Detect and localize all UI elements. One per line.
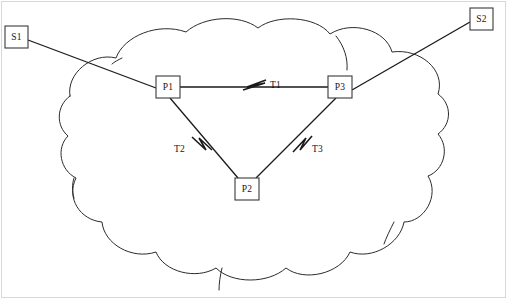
node-p1[interactable]: P1 <box>156 76 180 98</box>
node-s1[interactable]: S1 <box>5 26 28 48</box>
node-p3-label: P3 <box>335 82 345 92</box>
network-diagram: T1 T2 T3 S1 S2 P1 P2 <box>0 0 507 299</box>
node-s2-label: S2 <box>476 14 486 24</box>
link-label-t3: T3 <box>312 144 323 154</box>
node-p1-label: P1 <box>163 82 173 92</box>
network-cloud <box>59 19 448 290</box>
link-label-t1: T1 <box>270 80 281 90</box>
node-p3[interactable]: P3 <box>328 76 352 98</box>
diagram-canvas: T1 T2 T3 S1 S2 P1 P2 <box>0 0 507 299</box>
link-label-t2: T2 <box>174 144 185 154</box>
cloud-outline <box>59 19 448 280</box>
node-p2[interactable]: P2 <box>235 178 259 200</box>
node-s1-label: S1 <box>11 32 21 42</box>
node-p2-label: P2 <box>242 184 252 194</box>
node-s2[interactable]: S2 <box>470 8 493 30</box>
